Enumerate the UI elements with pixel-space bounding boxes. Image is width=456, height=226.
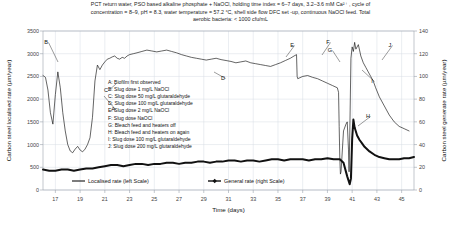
y-tick-label-right: 80 (419, 96, 425, 102)
chart-plot-area: ABCDEFGHIJ 17192123252729313335373941434… (0, 0, 456, 226)
y-tick-label-right: 20 (419, 164, 425, 170)
annotation-item-b: B: Slug dose 1 mg/L NaOCl (108, 86, 169, 92)
y-axis-title-left: Carbon steel localised rate (µm/year) (5, 60, 12, 162)
marker-labels: ABCDEFGHIJ (44, 39, 391, 119)
x-tick-label: 29 (201, 196, 207, 202)
annotation-marker-f: F (326, 39, 330, 45)
x-axis-title: Time (days) (212, 206, 244, 213)
x-tick-label: 23 (127, 196, 133, 202)
x-tick-label: 43 (374, 196, 380, 202)
annotation-item-h: H: Bleach feed and heaters on again (108, 129, 189, 135)
chart-root: PCT return water, PSO based alkaline pho… (0, 0, 456, 226)
legend-marker-symbol (213, 179, 217, 183)
y-tick-label-left: 3500 (27, 28, 39, 34)
x-tick-label: 45 (399, 196, 405, 202)
annotation-item-g: G: Bleach feed and heaters off (108, 122, 176, 128)
y-tick-label-left: 2000 (27, 96, 39, 102)
annotation-list: A: Biofilm first observedB: Slug dose 1 … (108, 79, 193, 149)
annotation-marker-j: J (389, 42, 392, 48)
y-tick-label-left: 1000 (27, 142, 39, 148)
x-tick-label: 25 (151, 196, 157, 202)
y-tick-label-right: 140 (419, 28, 428, 34)
annotation-item-a: A: Biofilm first observed (108, 79, 161, 85)
x-tick-label: 31 (226, 196, 232, 202)
x-tick-label: 21 (102, 196, 108, 202)
y-tick-label-right: 0 (419, 187, 422, 193)
y-tick-label-left: 2500 (27, 73, 39, 79)
x-tick-label: 39 (324, 196, 330, 202)
x-tick-label: 35 (275, 196, 281, 202)
y-tick-label-right: 120 (419, 51, 428, 57)
y-tick-label-right: 100 (419, 73, 428, 79)
y-tick-label-right: 60 (419, 119, 425, 125)
annotation-item-d: D: Slug dose 100 mg/L glutaraldehyde (108, 100, 193, 106)
annotation-marker-g: G (328, 47, 332, 53)
x-tick-label: 17 (52, 196, 58, 202)
y-tick-label-right: 40 (419, 142, 425, 148)
y-axis-title-right: Carbon steel generate rate (µm/year) (440, 60, 447, 162)
series-localised-rate (43, 42, 409, 174)
y-tick-label-left: 500 (30, 164, 39, 170)
annotation-marker-d: D (221, 75, 225, 81)
annotation-item-c: C: Slug dose 50 mg/L glutaraldehyde (108, 93, 190, 99)
annotation-leader-line (49, 43, 59, 63)
y-tick-label-left: 0 (36, 187, 39, 193)
annotation-leader-line (333, 51, 341, 63)
legend-label-2: General rate (right Scale) (224, 178, 285, 184)
annotation-item-j: J: Slug dose 200 mg/L glutaraldehyde (108, 143, 192, 149)
leader-lines (49, 43, 393, 127)
x-tick-label: 33 (250, 196, 256, 202)
x-tick-label: 19 (77, 196, 83, 202)
x-tick-label: 37 (300, 196, 306, 202)
legend-label-1: Localised rate (left Scale) (88, 178, 149, 184)
annotation-marker-e: E (290, 42, 294, 48)
y-tick-label-left: 3000 (27, 51, 39, 57)
x-tick-label: 41 (349, 196, 355, 202)
y-tick-label-left: 1500 (27, 119, 39, 125)
grid-layer (43, 31, 414, 190)
annotation-marker-h: H (366, 113, 370, 119)
annotation-item-i: I: Slug dose 100 mg/L glutaraldehyde (108, 136, 191, 142)
x-tick-label: 27 (176, 196, 182, 202)
chart-legend: Localised rate (left Scale)General rate … (72, 178, 285, 184)
chart-svg: ABCDEFGHIJ 17192123252729313335373941434… (0, 0, 456, 226)
annotation-item-f: F: Slug dose NaOCl (108, 115, 152, 121)
annotation-marker-b: B (44, 39, 48, 45)
annotation-item-e: E: Slug dose 2 mg/L NaOCl (108, 107, 169, 113)
